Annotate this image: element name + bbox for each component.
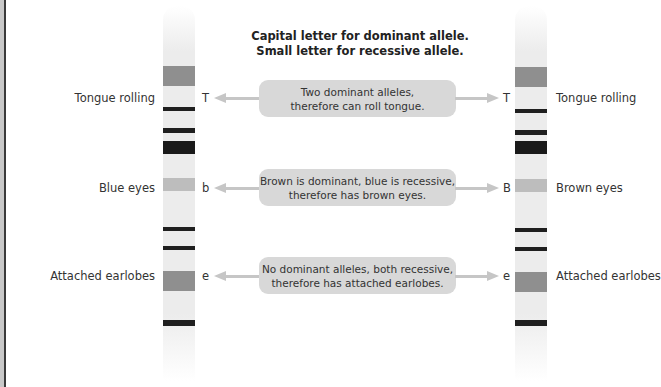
right-trait-label: Tongue rolling bbox=[556, 91, 636, 105]
right-allele: e bbox=[503, 269, 510, 283]
diagram-heading: Capital letter for dominant allele. Smal… bbox=[240, 29, 480, 59]
explanation-line-2: therefore has brown eyes. bbox=[289, 188, 426, 202]
explanation-line-2: therefore has attached earlobes. bbox=[271, 276, 443, 290]
band-gray bbox=[163, 271, 195, 291]
band-dark-thick bbox=[515, 141, 547, 154]
arrow-line bbox=[455, 187, 489, 190]
band-dark-thin bbox=[515, 130, 547, 135]
explanation-line-1: Brown is dominant, blue is recessive, bbox=[260, 174, 455, 188]
left-trait-label: Tongue rolling bbox=[5, 91, 155, 105]
right-trait-label: Attached earlobes bbox=[556, 269, 661, 283]
arrow-right-icon bbox=[487, 93, 499, 103]
explanation-box: Brown is dominant, blue is recessive, th… bbox=[259, 169, 456, 206]
explanation-line-1: Two dominant alleles, bbox=[301, 85, 414, 99]
left-trait-label: Attached earlobes bbox=[5, 269, 155, 283]
arrow-line bbox=[224, 187, 260, 190]
right-chromosome bbox=[515, 6, 547, 381]
band-dark-thin bbox=[163, 128, 195, 133]
band-dark bbox=[515, 320, 547, 326]
left-trait-label: Blue eyes bbox=[5, 181, 155, 195]
band-dark-thin bbox=[163, 227, 195, 231]
arrow-line bbox=[455, 275, 489, 278]
arrow-line bbox=[224, 97, 260, 100]
band-gray bbox=[515, 272, 547, 292]
arrow-right-icon bbox=[487, 183, 499, 193]
band-dark-thin bbox=[515, 228, 547, 232]
explanation-line-2: therefore can roll tongue. bbox=[291, 99, 425, 113]
explanation-box: Two dominant alleles, therefore can roll… bbox=[259, 80, 456, 117]
arrow-right-icon bbox=[487, 271, 499, 281]
right-trait-label: Brown eyes bbox=[556, 181, 623, 195]
left-chromosome bbox=[163, 6, 195, 381]
band-light bbox=[163, 178, 195, 191]
arrow-line bbox=[224, 275, 260, 278]
band-dark-thin bbox=[515, 247, 547, 251]
band-dark-thin bbox=[163, 107, 195, 111]
explanation-box: No dominant alleles, both recessive, the… bbox=[259, 257, 456, 294]
band-dark-thin bbox=[515, 109, 547, 113]
arrow-line bbox=[455, 97, 489, 100]
band-dark-thick bbox=[163, 141, 195, 154]
heading-line-1: Capital letter for dominant allele. bbox=[240, 29, 480, 44]
band-gray bbox=[163, 66, 195, 86]
band-gray bbox=[515, 67, 547, 87]
band-dark bbox=[163, 320, 195, 326]
heading-line-2: Small letter for recessive allele. bbox=[240, 44, 480, 59]
band-dark-thin bbox=[163, 246, 195, 250]
right-allele: B bbox=[503, 181, 511, 195]
band-light bbox=[515, 179, 547, 192]
right-allele: T bbox=[503, 91, 510, 105]
left-allele: T bbox=[202, 91, 209, 105]
explanation-line-1: No dominant alleles, both recessive, bbox=[262, 262, 453, 276]
left-allele: e bbox=[202, 269, 209, 283]
left-allele: b bbox=[202, 181, 209, 195]
